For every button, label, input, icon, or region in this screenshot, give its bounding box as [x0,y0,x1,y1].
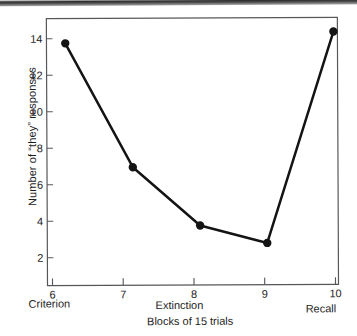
x-tick-label: 10 [329,287,341,299]
data-point-marker [329,27,337,35]
chart-plot-area: 14 12 10 8 6 4 2 6 7 8 9 10 [0,0,357,336]
data-point-marker [196,221,204,229]
caption-fragment [5,329,205,336]
x-axis-title: Blocks of 15 trials [1,314,357,328]
data-point-marker [61,39,69,47]
x-tick-label: 9 [262,288,268,300]
phase-label-recall: Recall [306,302,337,314]
phase-label-extinction: Extinction [156,299,204,311]
data-point-marker [263,239,271,247]
x-tick-label: 7 [120,288,126,300]
data-point-marker [129,163,137,171]
phase-label-criterion: Criterion [29,297,71,309]
y-tick-label: 2 [37,252,43,264]
line-chart-figure: 14 12 10 8 6 4 2 6 7 8 9 10 Number of “t [0,0,357,336]
y-axis-title: Number of “they” responses [25,37,38,237]
